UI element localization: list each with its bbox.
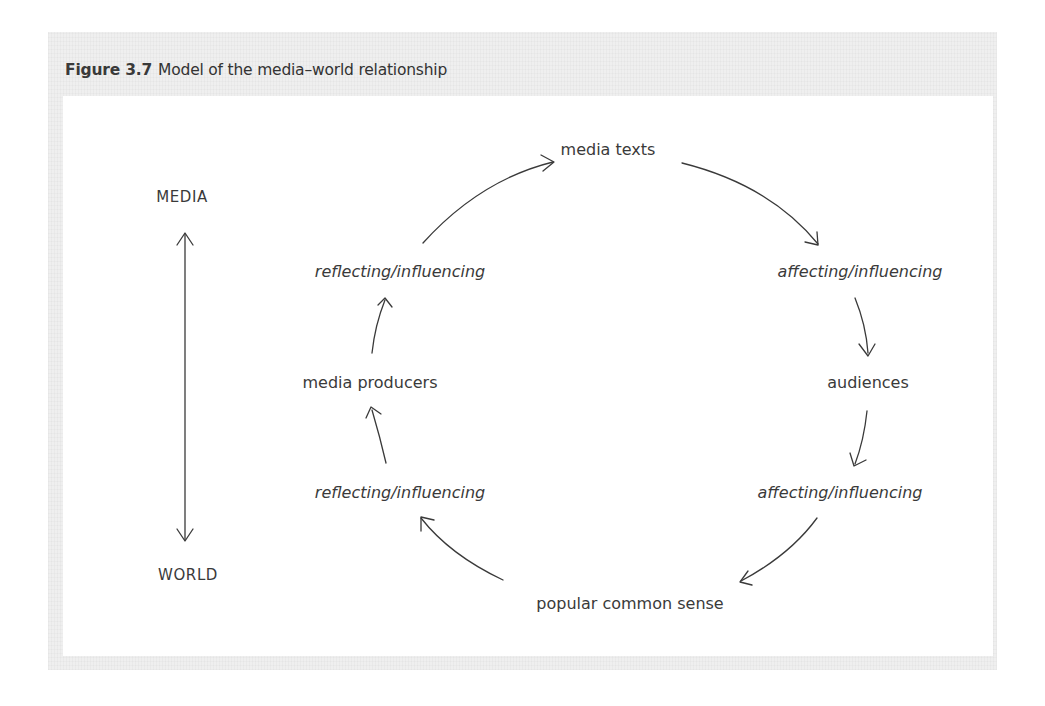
figure-caption: Figure 3.7Model of the media–world relat… [65, 61, 447, 79]
node-media-texts: media texts [561, 140, 656, 159]
media-axis-label: MEDIA [156, 188, 208, 206]
link-reflecting-bottom: reflecting/influencing [315, 483, 485, 502]
node-media-producers: media producers [303, 373, 438, 392]
figure-title: Model of the media–world relationship [158, 61, 447, 79]
link-affecting-top: affecting/influencing [778, 262, 943, 281]
link-affecting-bottom: affecting/influencing [758, 483, 923, 502]
figure-number: Figure 3.7 [65, 61, 152, 79]
node-audiences: audiences [827, 373, 909, 392]
link-reflecting-top: reflecting/influencing [315, 262, 485, 281]
node-popular-common-sense: popular common sense [536, 594, 723, 613]
world-axis-label: WORLD [158, 566, 218, 584]
